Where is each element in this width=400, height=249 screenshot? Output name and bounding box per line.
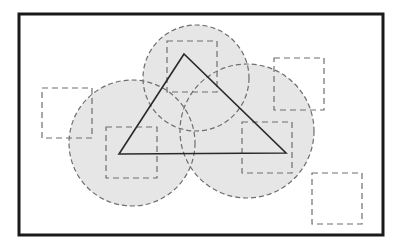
circles-layer [69,25,314,206]
geometry-diagram [0,0,400,249]
square-bottom-right [312,173,362,224]
diagram-canvas [0,0,400,249]
